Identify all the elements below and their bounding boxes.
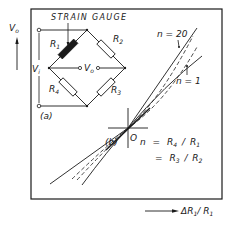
equation-line-1: n = R4 / R1 (140, 137, 200, 149)
x-axis-arrow-icon (145, 209, 179, 212)
panel-b-label: (b) (105, 137, 118, 147)
equation-line-2: = R3 / R2 (155, 153, 203, 165)
label-r1: R1 (50, 39, 60, 50)
label-vi: Vi (32, 64, 40, 75)
resistor-r4 (59, 78, 77, 96)
y-axis-arrow-icon (15, 37, 18, 70)
label-r3: R3 (111, 85, 121, 96)
frame-border (31, 9, 222, 199)
svg-text:Vo: Vo (9, 23, 19, 34)
svg-text:= R3 / R2: = R3 / R2 (155, 153, 203, 165)
label-n1: n = 1 (176, 76, 201, 86)
label-r2: R2 (113, 34, 123, 45)
panel-a-label: (a) (40, 111, 53, 121)
diagram-canvas: Vo STRAIN GAUGE (0, 0, 232, 228)
x-axis-label: ΔR1/ R1 (180, 206, 213, 217)
strain-gauge-label: STRAIN GAUGE (51, 13, 127, 22)
origin-label: O (130, 133, 137, 143)
input-terminal-top (37, 28, 41, 32)
label-r4: R4 (49, 84, 59, 95)
label-n20: n = 20 (157, 29, 188, 39)
label-vo-bridge: Vo (84, 63, 94, 74)
input-terminal-bottom (37, 104, 41, 108)
y-axis-label: Vo (9, 23, 19, 34)
svg-text:n = R4 /: n = R4 / R1 (140, 137, 200, 149)
